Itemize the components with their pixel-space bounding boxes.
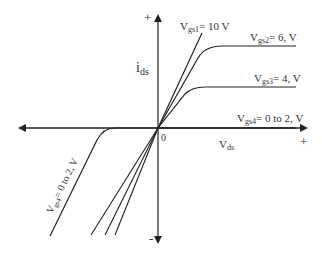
iv-characteristic-diagram: + - + 0 ids Vds Vgs1= 10 V Vgs2= 6, V Vg… [0,0,322,256]
label-vgs4: Vgs4= 0 to 2, V [237,112,303,126]
x-axis-label: Vds [219,138,234,152]
curve-vgs3-negative [91,128,158,235]
y-axis-label: ids [136,60,149,77]
y-plus-sign: + [144,10,151,25]
label-vgs4-negative: Vgs4= 0 to 2, V [44,155,82,215]
label-vgs3: Vgs3= 4, V [254,72,301,86]
label-vgs2: Vgs2= 6, V [250,31,297,45]
curve-vgs1 [158,33,202,128]
label-vgs1: Vgs1= 10 V [180,20,230,34]
y-minus-sign: - [149,231,153,246]
x-plus-sign: + [300,134,307,149]
origin-label: 0 [161,132,166,143]
curve-vgs2-negative [105,128,158,235]
curve-vgs1-negative [115,128,158,235]
